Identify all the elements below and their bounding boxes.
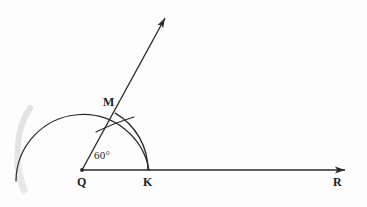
label-point-q: Q [77,176,86,188]
label-angle-measure: 60° [94,150,110,161]
geometry-figure [0,0,367,207]
label-point-k: K [143,176,152,188]
intersection-tick-at-M [96,117,134,132]
diagram-canvas: Q K M R 60° [0,0,367,207]
label-point-r: R [333,176,342,188]
label-point-m: M [103,96,114,108]
vertex-dot-q [80,168,84,172]
upper-ray-QM [82,18,165,170]
